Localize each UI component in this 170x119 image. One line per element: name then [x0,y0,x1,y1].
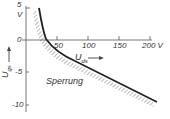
y-axis-unit: V [17,11,22,19]
x-tick-label-100: 100 [82,42,95,50]
x-tick-label-150: 150 [113,42,126,50]
x-axis-label: Uds [75,53,88,64]
y-axis-label: Ugs [1,65,12,78]
y-tick-label-m10: -10 [12,101,24,109]
arrow-right-icon [99,56,104,60]
region-label-sperrung: Sperrung [46,77,83,86]
y-tick-label-0: 0 [17,36,21,44]
y-tick-label-m5: -5 [15,68,22,76]
arrow-up-icon [7,46,11,51]
x-tick-label-200: 200 V [142,42,163,50]
x-tick-label-50: 50 [54,42,63,50]
y-tick-label-5: 5 [17,1,21,9]
